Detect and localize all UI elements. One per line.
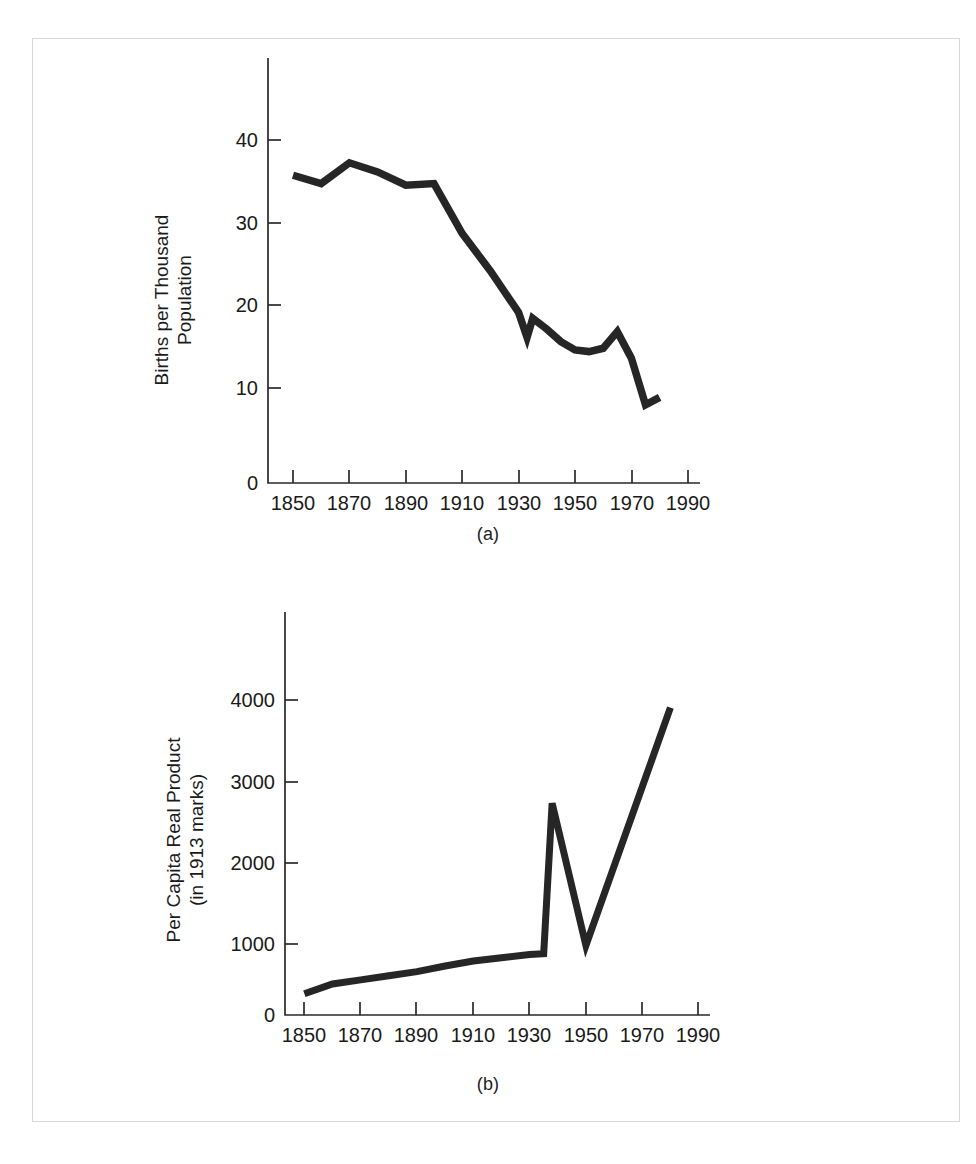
chart-a-xtick-1970: 1970 xyxy=(610,492,655,514)
chart-a-ylabel-line2: Population xyxy=(174,255,195,345)
chart-b-xtick-1910: 1910 xyxy=(451,1024,496,1046)
chart-a-xtick-1870: 1870 xyxy=(327,492,372,514)
chart-a-x-ticks xyxy=(293,470,688,483)
chart-b-ylabel-line1: Per Capita Real Product xyxy=(163,737,184,943)
chart-a-xtick-1850: 1850 xyxy=(271,492,316,514)
chart-b-axes xyxy=(285,612,710,1015)
chart-b-ylabel: Per Capita Real Product (in 1913 marks) xyxy=(163,737,207,943)
chart-b-xtick-1990: 1990 xyxy=(676,1024,721,1046)
chart-b-xtick-1870: 1870 xyxy=(338,1024,383,1046)
chart-b-ytick-3000: 3000 xyxy=(231,771,276,793)
chart-a-xtick-1930: 1930 xyxy=(497,492,542,514)
chart-a-data-line xyxy=(293,163,660,405)
chart-b-xtick-1890: 1890 xyxy=(394,1024,439,1046)
chart-a-ytick-30: 30 xyxy=(236,212,258,234)
figure-a: 40 30 20 10 0 1850 1870 1890 1910 1930 xyxy=(0,0,976,560)
chart-b-ytick-1000: 1000 xyxy=(231,933,276,955)
chart-a-ylabel: Births per Thousand Population xyxy=(151,215,195,386)
chart-a-y-ticks xyxy=(268,140,281,388)
figure-page: 40 30 20 10 0 1850 1870 1890 1910 1930 xyxy=(0,0,976,1164)
figure-a-caption: (a) xyxy=(408,524,568,545)
chart-b-xtick-1950: 1950 xyxy=(564,1024,609,1046)
chart-b-ytick-2000: 2000 xyxy=(231,852,276,874)
chart-a-ylabel-line1: Births per Thousand xyxy=(151,215,172,386)
chart-b-data-line xyxy=(304,708,670,994)
chart-a-xtick-1910: 1910 xyxy=(440,492,485,514)
chart-a-ytick-0: 0 xyxy=(247,472,258,494)
chart-a-svg: 40 30 20 10 0 1850 1870 1890 1910 1930 xyxy=(0,0,976,560)
chart-a-ytick-40: 40 xyxy=(236,129,258,151)
figure-b: 4000 3000 2000 1000 0 1850 1870 1890 191… xyxy=(0,600,976,1100)
chart-b-svg: 4000 3000 2000 1000 0 1850 1870 1890 191… xyxy=(0,600,976,1100)
chart-a-xtick-1950: 1950 xyxy=(553,492,598,514)
chart-b-xtick-1970: 1970 xyxy=(620,1024,665,1046)
chart-b-y-ticks xyxy=(285,700,298,944)
chart-a-xtick-1990: 1990 xyxy=(666,492,711,514)
chart-a-xtick-1890: 1890 xyxy=(384,492,429,514)
chart-b-ytick-4000: 4000 xyxy=(231,689,276,711)
chart-b-xtick-1850: 1850 xyxy=(282,1024,327,1046)
chart-b-ylabel-line2: (in 1913 marks) xyxy=(186,774,207,906)
figure-b-caption: (b) xyxy=(408,1074,568,1095)
chart-a-ytick-10: 10 xyxy=(236,377,258,399)
chart-b-x-ticks xyxy=(304,1002,698,1015)
chart-b-xtick-1930: 1930 xyxy=(507,1024,552,1046)
chart-a-axes xyxy=(268,58,700,483)
chart-a-ytick-20: 20 xyxy=(236,294,258,316)
chart-b-ytick-0: 0 xyxy=(264,1004,275,1026)
